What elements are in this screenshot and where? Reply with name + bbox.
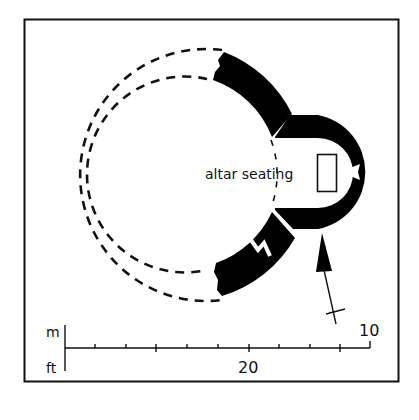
- scale-metric-end: 10: [359, 321, 379, 340]
- scale-unit-metric: m: [46, 324, 60, 340]
- south-wall-remnant: [214, 212, 295, 296]
- north-wall-remnant: [213, 52, 292, 137]
- outer-dashed-circle: [80, 49, 222, 301]
- altar-seating-label: altar seating: [205, 166, 293, 182]
- site-plan: altar seating m ft 10 20: [0, 0, 419, 420]
- north-arrow-icon: [316, 233, 345, 324]
- inner-dashed-circle: [87, 76, 207, 272]
- altar-seating-outline: [318, 155, 337, 192]
- scale-imperial-mid: 20: [238, 358, 258, 377]
- scale-unit-imperial: ft: [46, 360, 57, 376]
- scale-bar: [65, 325, 370, 371]
